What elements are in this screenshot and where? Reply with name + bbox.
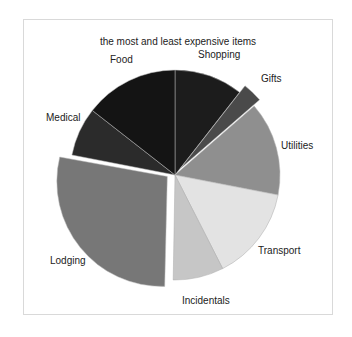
slice-lodging (57, 157, 167, 286)
label-incidentals: Incidentals (182, 295, 230, 306)
label-medical: Medical (46, 112, 80, 123)
label-shopping: Shopping (198, 49, 240, 60)
label-utilities: Utilities (281, 140, 313, 151)
label-gifts: Gifts (261, 73, 282, 84)
pie-chart (0, 0, 352, 337)
label-food: Food (110, 54, 133, 65)
label-lodging: Lodging (50, 255, 86, 266)
label-transport: Transport (258, 245, 300, 256)
